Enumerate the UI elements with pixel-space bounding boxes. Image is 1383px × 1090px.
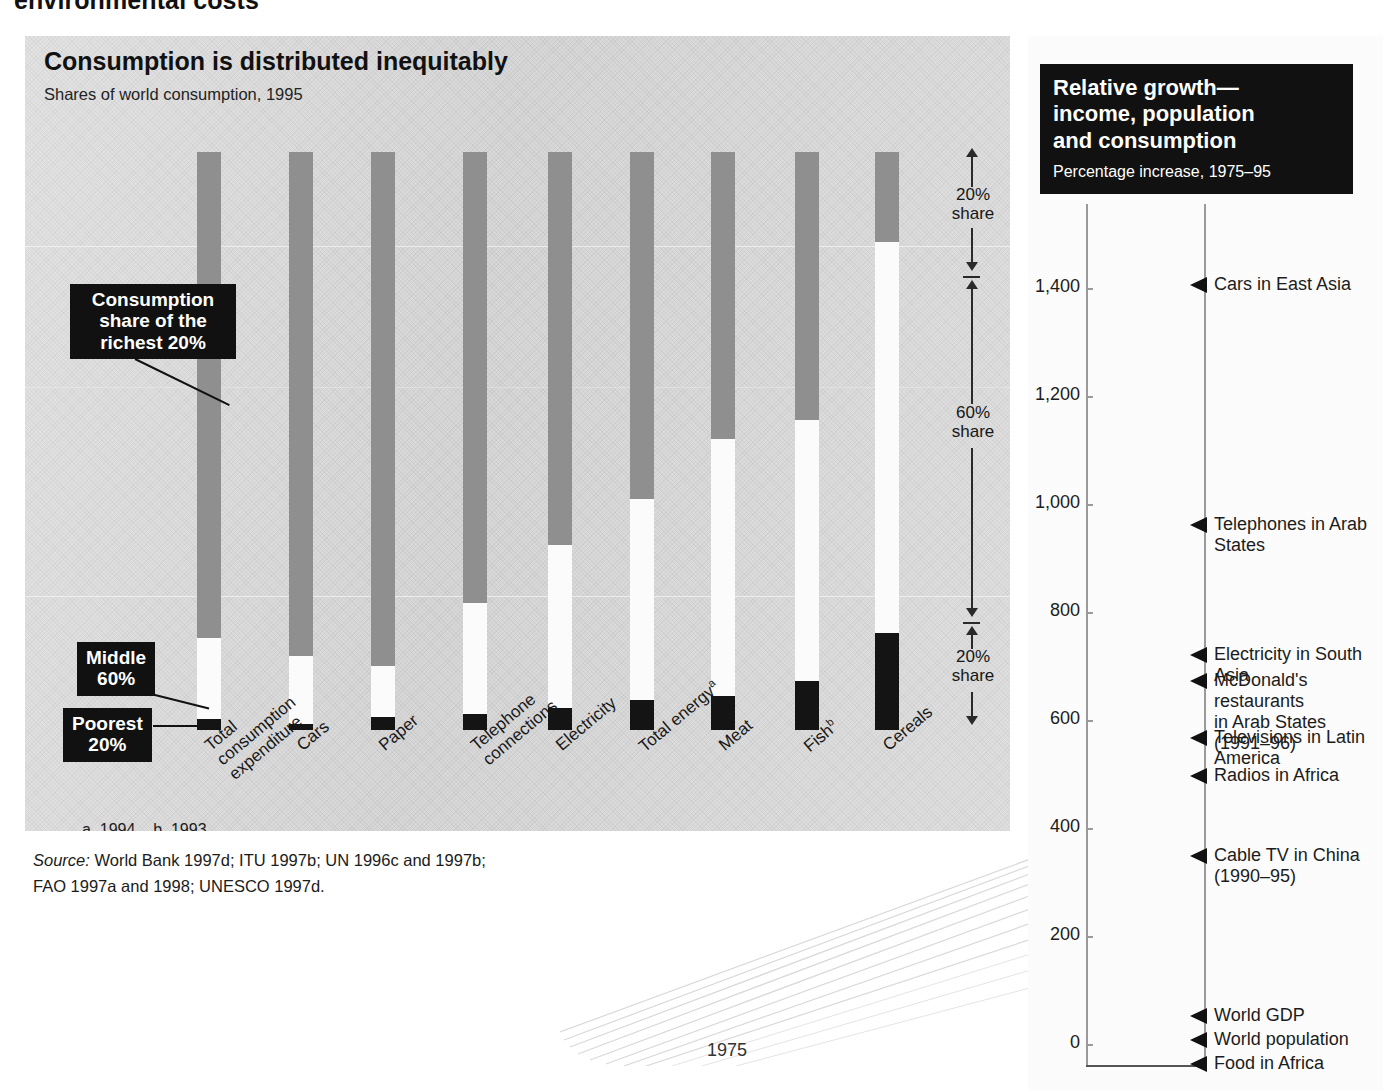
share-arrow-bottom-up bbox=[966, 626, 978, 635]
bar-segment-richest bbox=[630, 152, 654, 499]
callout-poorest-leader bbox=[153, 725, 199, 727]
growth-axis-right-rule bbox=[1204, 204, 1206, 1066]
share-arrow-top-up bbox=[966, 148, 978, 157]
relative-growth-panel: Relative growth— income, population and … bbox=[1028, 36, 1383, 1090]
bar-4 bbox=[463, 152, 487, 730]
bar-segment-middle bbox=[463, 603, 487, 714]
bar-segment-middle bbox=[795, 420, 819, 681]
growth-marker-label-10: Food in Africa bbox=[1214, 1053, 1324, 1074]
axis-tick-mark-4 bbox=[1086, 720, 1093, 722]
axis-tick-mark-3 bbox=[1086, 612, 1093, 614]
growth-marker-arrow-3 bbox=[1190, 647, 1207, 663]
right-title-box: Relative growth— income, population and … bbox=[1040, 64, 1353, 194]
callout-poorest-20: Poorest 20% bbox=[63, 708, 152, 762]
bar-segment-richest bbox=[711, 152, 735, 439]
callout-middle-60: Middle 60% bbox=[77, 642, 155, 696]
share-line-mid-2 bbox=[971, 448, 973, 608]
bar-segment-richest bbox=[371, 152, 395, 666]
share-label-bottom: 20% share bbox=[938, 648, 1008, 685]
share-arrow-bottom-down bbox=[966, 716, 978, 725]
share-divider-top bbox=[963, 276, 980, 278]
bar-segment-middle bbox=[875, 242, 899, 633]
bar-segment-poorest bbox=[795, 681, 819, 730]
bar-segment-richest bbox=[795, 152, 819, 420]
growth-marker-arrow-1 bbox=[1190, 277, 1207, 293]
share-arrow-mid-down bbox=[966, 608, 978, 617]
chart-footnote: a. 1994. b. 1993. bbox=[82, 821, 211, 831]
growth-marker-label-2: Telephones in Arab States bbox=[1214, 514, 1383, 556]
axis-tick-mark-6 bbox=[1086, 936, 1093, 938]
bar-segment-middle bbox=[630, 499, 654, 700]
bar-5 bbox=[548, 152, 572, 730]
year-label-1975: 1975 bbox=[707, 1040, 747, 1061]
share-line-bottom-2 bbox=[971, 692, 973, 716]
growth-marker-arrow-6 bbox=[1190, 768, 1207, 784]
bar-segment-poorest bbox=[875, 633, 899, 730]
bar-segment-middle bbox=[371, 666, 395, 717]
share-divider-bottom bbox=[963, 622, 980, 624]
source-text-1: World Bank 1997d; ITU 1997b; UN 1996c an… bbox=[94, 851, 485, 869]
source-label: Source: bbox=[33, 851, 90, 869]
share-label-top: 20% share bbox=[938, 186, 1008, 223]
right-chart-subtitle: Percentage increase, 1975–95 bbox=[1053, 163, 1340, 181]
growth-marker-arrow-5 bbox=[1190, 730, 1207, 746]
growth-marker-label-9: World population bbox=[1214, 1029, 1349, 1050]
growth-marker-label-6: Radios in Africa bbox=[1214, 765, 1339, 786]
growth-marker-arrow-10 bbox=[1190, 1056, 1207, 1072]
axis-tick-400: 400 bbox=[1028, 816, 1080, 837]
bar-1 bbox=[197, 152, 221, 730]
growth-axis-baseline bbox=[1086, 1065, 1206, 1067]
growth-marker-arrow-8 bbox=[1190, 1008, 1207, 1024]
axis-tick-600: 600 bbox=[1028, 708, 1080, 729]
consumption-chart-panel: Consumption is distributed inequitably S… bbox=[25, 36, 1010, 831]
right-chart-title: Relative growth— income, population and … bbox=[1053, 75, 1340, 154]
bar-segment-middle bbox=[548, 545, 572, 708]
growth-marker-arrow-4 bbox=[1190, 673, 1207, 689]
bar-segment-richest bbox=[463, 152, 487, 603]
axis-tick-1400: 1,400 bbox=[1028, 276, 1080, 297]
source-text-2: FAO 1997a and 1998; UNESCO 1997d. bbox=[33, 874, 486, 900]
source-line-1: Source: World Bank 1997d; ITU 1997b; UN … bbox=[33, 848, 486, 874]
axis-tick-0: 0 bbox=[1028, 1032, 1080, 1053]
bar-segment-middle bbox=[711, 439, 735, 696]
axis-tick-mark-2 bbox=[1086, 504, 1093, 506]
growth-marker-label-7: Cable TV in China (1990–95) bbox=[1214, 845, 1360, 887]
axis-tick-800: 800 bbox=[1028, 600, 1080, 621]
growth-marker-arrow-7 bbox=[1190, 848, 1207, 864]
axis-tick-1200: 1,200 bbox=[1028, 384, 1080, 405]
share-label-mid: 60% share bbox=[938, 404, 1008, 441]
growth-marker-arrow-2 bbox=[1190, 517, 1207, 533]
share-line-mid-1 bbox=[971, 289, 973, 404]
axis-tick-mark-7 bbox=[1086, 1044, 1093, 1046]
growth-marker-label-1: Cars in East Asia bbox=[1214, 274, 1351, 295]
axis-tick-200: 200 bbox=[1028, 924, 1080, 945]
bar-3 bbox=[371, 152, 395, 730]
bar-segment-richest bbox=[548, 152, 572, 545]
bar-2 bbox=[289, 152, 313, 730]
axis-tick-1000: 1,000 bbox=[1028, 492, 1080, 513]
axis-tick-mark-5 bbox=[1086, 828, 1093, 830]
share-arrow-mid-up bbox=[966, 280, 978, 289]
bar-segment-richest bbox=[875, 152, 899, 242]
share-line-top-2 bbox=[971, 228, 973, 262]
axis-tick-mark-0 bbox=[1086, 288, 1093, 290]
growth-marker-label-5: Televisions in Latin America bbox=[1214, 727, 1383, 769]
bar-8 bbox=[795, 152, 819, 730]
growth-marker-label-8: World GDP bbox=[1214, 1005, 1305, 1026]
growth-marker-arrow-9 bbox=[1190, 1032, 1207, 1048]
page-running-head: environmental costs bbox=[14, 0, 259, 15]
bar-segment-richest bbox=[289, 152, 313, 656]
axis-tick-mark-1 bbox=[1086, 396, 1093, 398]
bar-7 bbox=[711, 152, 735, 730]
bar-9 bbox=[875, 152, 899, 730]
share-arrow-top-down bbox=[966, 262, 978, 271]
callout-richest-20: Consumption share of the richest 20% bbox=[70, 284, 236, 359]
share-line-top bbox=[971, 157, 973, 187]
source-note: Source: World Bank 1997d; ITU 1997b; UN … bbox=[33, 848, 486, 899]
bar-6 bbox=[630, 152, 654, 730]
